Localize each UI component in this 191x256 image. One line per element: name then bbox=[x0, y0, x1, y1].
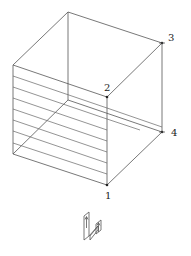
orientation-icon bbox=[84, 212, 101, 240]
box-edges bbox=[13, 12, 162, 185]
arrow-up-icon bbox=[85, 217, 88, 229]
point-1-marker bbox=[106, 184, 109, 187]
corner-points bbox=[106, 42, 165, 187]
box-diagram: 1 2 3 4 bbox=[0, 0, 191, 256]
point-2-marker bbox=[106, 96, 109, 99]
point-label-3: 3 bbox=[168, 32, 174, 43]
point-label-4: 4 bbox=[171, 127, 177, 138]
point-label-2: 2 bbox=[104, 82, 110, 93]
point-label-1: 1 bbox=[105, 190, 111, 201]
